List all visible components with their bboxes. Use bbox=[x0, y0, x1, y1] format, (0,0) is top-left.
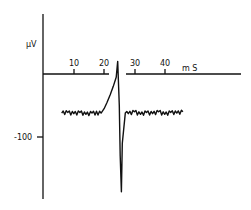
x-unit-label: m S bbox=[182, 64, 197, 73]
x-tick-label-20: 20 bbox=[99, 59, 109, 68]
x-tick-label-30: 30 bbox=[130, 59, 140, 68]
y-tick-label-neg100: -100 bbox=[14, 133, 32, 142]
x-tick-label-40: 40 bbox=[160, 59, 170, 68]
x-tick-label-10: 10 bbox=[69, 59, 79, 68]
waveform-trace bbox=[62, 61, 183, 191]
waveform-chart: µV 10 20 30 40 m S -100 bbox=[0, 0, 251, 210]
y-unit-label: µV bbox=[26, 40, 37, 49]
